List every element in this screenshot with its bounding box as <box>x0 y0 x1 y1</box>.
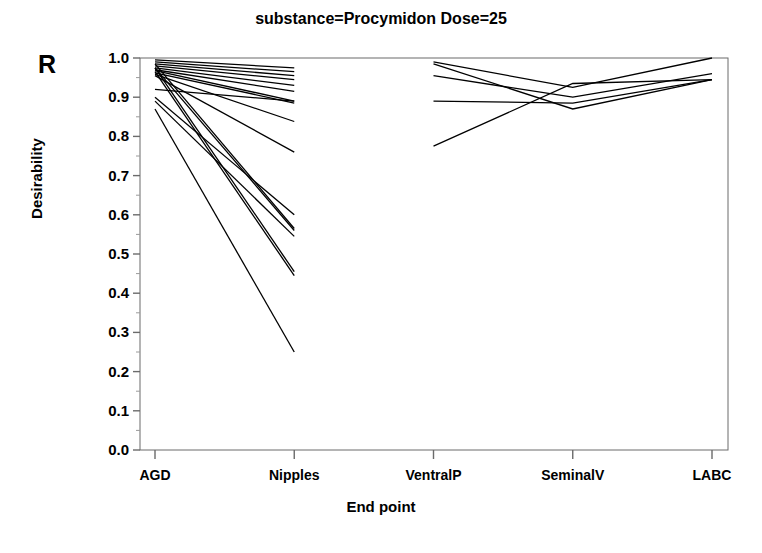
plot-frame <box>140 58 728 450</box>
plot-canvas <box>0 0 762 553</box>
series-line <box>155 71 294 102</box>
series-layer <box>155 58 712 352</box>
series-line <box>155 72 294 276</box>
chart-figure: substance=Procymidon Dose=25 R Desirabil… <box>0 0 762 553</box>
axis-layer <box>133 58 728 459</box>
series-line <box>434 80 713 147</box>
series-line <box>155 68 294 231</box>
